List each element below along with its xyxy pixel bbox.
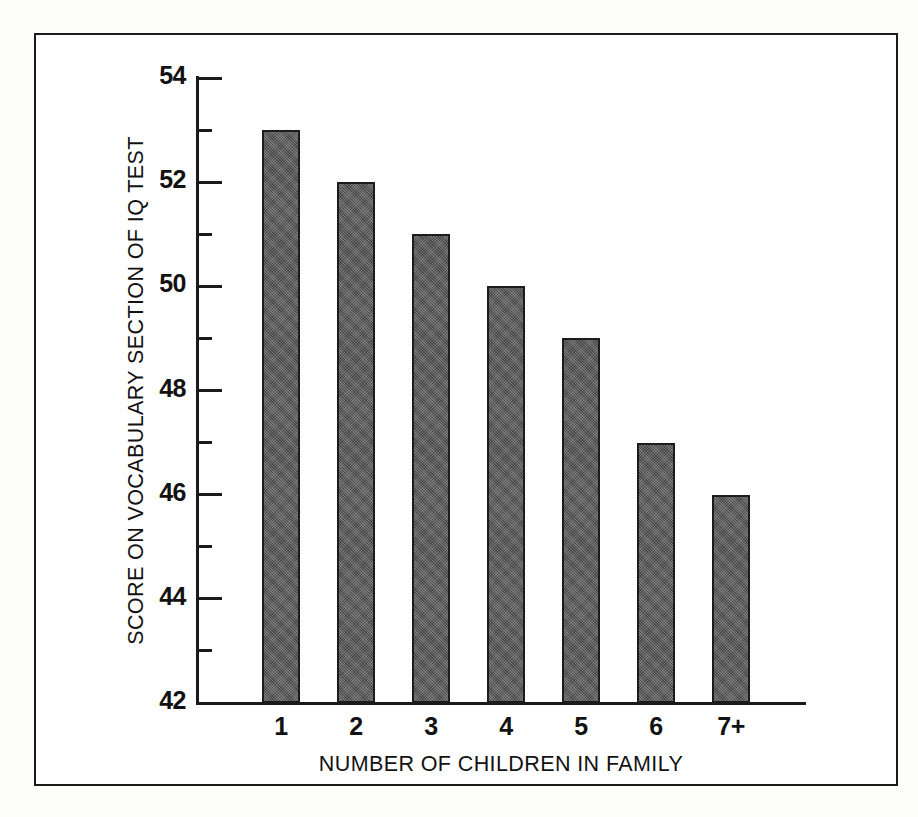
y-axis-title: SCORE ON VOCABULARY SECTION OF IQ TEST xyxy=(124,78,149,703)
x-axis-tick-label: 4 xyxy=(466,712,546,741)
y-axis-minor-tick xyxy=(199,233,212,236)
bar xyxy=(487,286,525,703)
x-axis-title: NUMBER OF CHILDREN IN FAMILY xyxy=(196,752,806,777)
bar xyxy=(412,234,450,703)
y-axis-minor-tick xyxy=(199,649,212,652)
y-axis-major-tick xyxy=(199,389,222,392)
bar xyxy=(637,443,675,703)
bar xyxy=(712,495,750,703)
y-axis-major-tick xyxy=(199,77,222,80)
bar xyxy=(262,130,300,703)
x-axis-tick-label: 3 xyxy=(391,712,471,741)
y-axis-minor-tick xyxy=(199,129,212,132)
y-axis-minor-tick xyxy=(199,337,212,340)
y-axis-major-tick xyxy=(199,597,222,600)
bar xyxy=(562,338,600,703)
y-axis-minor-tick xyxy=(199,545,212,548)
y-axis-major-tick xyxy=(199,285,222,288)
figure-border xyxy=(34,33,898,786)
y-axis-major-tick xyxy=(199,493,222,496)
figure: 42444648505254 1234567+ NUMBER OF CHILDR… xyxy=(0,0,918,817)
x-axis-tick-label: 5 xyxy=(541,712,621,741)
y-axis-major-tick xyxy=(199,181,222,184)
x-axis-tick-label: 7+ xyxy=(691,712,771,741)
x-axis-tick-label: 6 xyxy=(616,712,696,741)
y-axis-major-tick xyxy=(199,702,222,705)
x-axis-tick-label: 1 xyxy=(241,712,321,741)
y-axis-minor-tick xyxy=(199,441,212,444)
x-axis-tick-label: 2 xyxy=(316,712,396,741)
bar xyxy=(337,182,375,703)
